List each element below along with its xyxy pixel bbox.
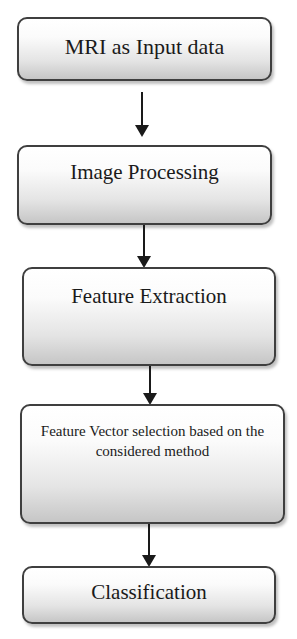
arrow-shaft (141, 92, 143, 126)
flow-step-mri-input: MRI as Input data (17, 17, 272, 81)
arrow-head (135, 125, 149, 137)
arrow-down-icon (141, 524, 157, 567)
flow-step-feature-vector-selection: Feature Vector selection based on the co… (20, 404, 285, 524)
arrow-shaft (149, 366, 151, 394)
flow-step-image-processing: Image Processing (17, 145, 272, 225)
step-label: MRI as Input data (65, 34, 224, 60)
step-label: Feature Vector selection based on the co… (22, 421, 283, 462)
arrow-down-icon (134, 92, 150, 137)
arrow-shaft (143, 225, 145, 257)
flow-step-feature-extraction: Feature Extraction (22, 267, 276, 366)
step-label: Classification (91, 580, 206, 605)
arrow-down-icon (142, 366, 158, 405)
flow-step-classification: Classification (22, 566, 276, 624)
step-label: Feature Extraction (71, 284, 227, 309)
step-label: Image Processing (70, 160, 219, 185)
arrow-down-icon (136, 225, 152, 268)
cropped-text-fragment (30, 0, 110, 2)
arrow-shaft (148, 524, 150, 556)
